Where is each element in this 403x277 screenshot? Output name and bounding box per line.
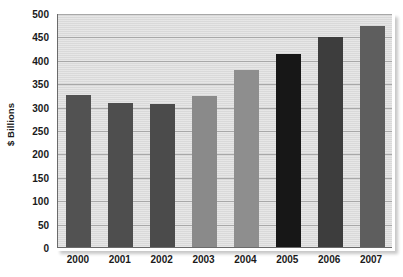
y-axis-title-label: $ Billions xyxy=(6,102,17,145)
y-tick-label-200: 200 xyxy=(32,149,49,160)
bar-chart: $ Billions 05010015020025030035040045050… xyxy=(0,0,403,277)
x-tick-label-2005: 2005 xyxy=(276,254,298,265)
y-tick-label-400: 400 xyxy=(32,55,49,66)
bar-2007 xyxy=(360,26,385,247)
bar-2006 xyxy=(318,37,343,247)
x-tick-label-2002: 2002 xyxy=(151,254,173,265)
y-tick-label-100: 100 xyxy=(32,196,49,207)
bar-2000 xyxy=(66,95,91,247)
y-tick-label-350: 350 xyxy=(32,79,49,90)
bar-2003 xyxy=(192,96,217,247)
y-tick-label-150: 150 xyxy=(32,172,49,183)
y-tick-label-0: 0 xyxy=(43,243,49,254)
plot-area xyxy=(57,14,392,248)
x-tick-label-2006: 2006 xyxy=(318,254,340,265)
y-tick-label-50: 50 xyxy=(38,219,49,230)
bar-2004 xyxy=(234,70,259,247)
x-tick-label-2000: 2000 xyxy=(67,254,89,265)
x-tick-label-2007: 2007 xyxy=(360,254,382,265)
y-tick-label-500: 500 xyxy=(32,9,49,20)
y-tick-label-300: 300 xyxy=(32,102,49,113)
x-tick-label-2003: 2003 xyxy=(192,254,214,265)
x-tick-label-2001: 2001 xyxy=(109,254,131,265)
bar-2001 xyxy=(108,103,133,247)
y-tick-label-250: 250 xyxy=(32,126,49,137)
y-axis-tick-labels: 050100150200250300350400450500 xyxy=(20,14,53,248)
bar-2002 xyxy=(150,104,175,247)
y-axis-title: $ Billions xyxy=(0,0,22,248)
gridline-500 xyxy=(58,14,392,15)
x-tick-label-2004: 2004 xyxy=(234,254,256,265)
y-tick-label-450: 450 xyxy=(32,32,49,43)
bar-2005 xyxy=(276,54,301,247)
x-axis-tick-labels: 20002001200220032004200520062007 xyxy=(57,251,392,273)
